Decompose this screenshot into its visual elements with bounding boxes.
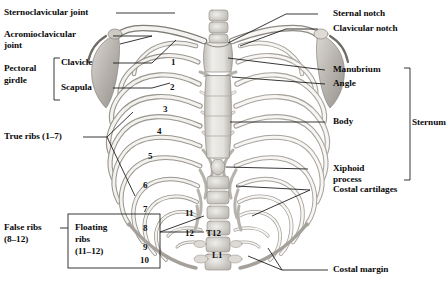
rib-number-2: 2 <box>170 82 175 92</box>
anatomy-figure: Sternoclavicular joint Acromioclavicular… <box>0 0 448 282</box>
label-floating-ribs-line3: (11–12) <box>75 246 103 257</box>
label-false-ribs-line2: (8–12) <box>4 234 28 245</box>
rib-number-5: 5 <box>148 151 153 161</box>
label-angle: Angle <box>333 78 356 89</box>
rib-number-1: 1 <box>171 57 176 67</box>
rib-number-6: 6 <box>143 180 148 190</box>
label-costal-cartilages: Costal cartilages <box>333 184 397 195</box>
label-floating-ribs-line2: ribs <box>75 234 90 245</box>
label-clavicular-notch: Clavicular notch <box>333 23 398 34</box>
rib-number-7: 7 <box>143 204 148 214</box>
label-false-ribs-line1: False ribs <box>4 222 42 233</box>
vertebra-label-l1: L1 <box>212 250 223 260</box>
label-clavicle: Clavicle <box>61 57 92 68</box>
rib-number-12: 12 <box>185 228 194 238</box>
label-body: Body <box>333 116 353 127</box>
rib-number-8: 8 <box>143 223 148 233</box>
label-acromioclavicular-joint-line1: Acromioclavicular <box>4 29 76 40</box>
rib-number-11: 11 <box>185 208 194 218</box>
rib-number-9: 9 <box>143 242 148 252</box>
label-xiphoid-process-line1: Xiphoid <box>333 163 364 174</box>
rib-number-10: 10 <box>140 255 149 265</box>
label-pectoral-girdle-line2: girdle <box>4 75 27 86</box>
label-true-ribs: True ribs (1–7) <box>4 131 62 142</box>
leader-lines <box>0 0 448 282</box>
label-scapula: Scapula <box>61 82 92 93</box>
rib-number-3: 3 <box>163 104 168 114</box>
label-costal-margin: Costal margin <box>333 264 388 275</box>
label-floating-ribs-line1: Floating <box>75 222 107 233</box>
label-sternoclavicular-joint: Sternoclavicular joint <box>4 7 88 18</box>
label-sternum: Sternum <box>412 117 446 128</box>
vertebra-label-t12: T12 <box>206 228 221 238</box>
label-sternal-notch: Sternal notch <box>333 8 385 19</box>
label-acromioclavicular-joint-line2: joint <box>4 40 22 51</box>
label-xiphoid-process-line2: process <box>333 174 362 185</box>
rib-number-4: 4 <box>157 126 162 136</box>
label-pectoral-girdle-line1: Pectoral <box>4 63 36 74</box>
label-manubrium: Manubrium <box>333 64 381 75</box>
